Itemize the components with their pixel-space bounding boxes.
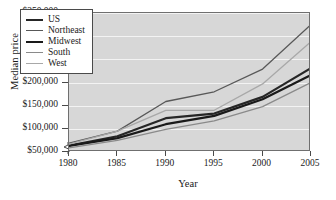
legend-label: West — [48, 58, 67, 69]
x-tick-mark — [310, 151, 311, 156]
plot-area — [68, 12, 310, 151]
series-lines — [69, 13, 310, 151]
y-tick-label: $150,000 — [22, 99, 58, 109]
x-tick-label: 1990 — [145, 158, 185, 168]
legend: USNortheastMidwestSouthWest — [20, 9, 93, 74]
legend-label: South — [48, 47, 70, 58]
legend-item: Northeast — [26, 25, 85, 36]
legend-swatch — [26, 19, 43, 21]
legend-label: US — [48, 14, 60, 25]
legend-swatch — [26, 41, 43, 43]
y-tick-label: $200,000 — [22, 76, 58, 86]
x-tick-label: 1995 — [193, 158, 233, 168]
legend-label: Northeast — [48, 25, 85, 36]
x-tick-mark — [262, 151, 263, 156]
legend-swatch — [26, 30, 43, 31]
x-tick-mark — [116, 151, 117, 156]
legend-item: South — [26, 47, 85, 58]
median-price-line-chart: Median price Year $50,000$100,000$150,00… — [0, 0, 336, 200]
x-tick-label: 1985 — [96, 158, 136, 168]
legend-swatch — [26, 63, 43, 64]
x-axis-title: Year — [68, 178, 308, 189]
x-tick-mark — [213, 151, 214, 156]
legend-swatch — [26, 52, 43, 53]
legend-item: West — [26, 58, 85, 69]
x-tick-label: 2005 — [290, 158, 330, 168]
legend-item: US — [26, 14, 85, 25]
legend-item: Midwest — [26, 36, 85, 47]
y-tick-label: $50,000 — [27, 145, 58, 155]
y-axis-title: Median price — [9, 14, 20, 110]
x-tick-label: 1980 — [48, 158, 88, 168]
legend-label: Midwest — [48, 36, 81, 47]
y-tick-label: $100,000 — [22, 122, 58, 132]
x-tick-label: 2000 — [242, 158, 282, 168]
x-tick-mark — [165, 151, 166, 156]
